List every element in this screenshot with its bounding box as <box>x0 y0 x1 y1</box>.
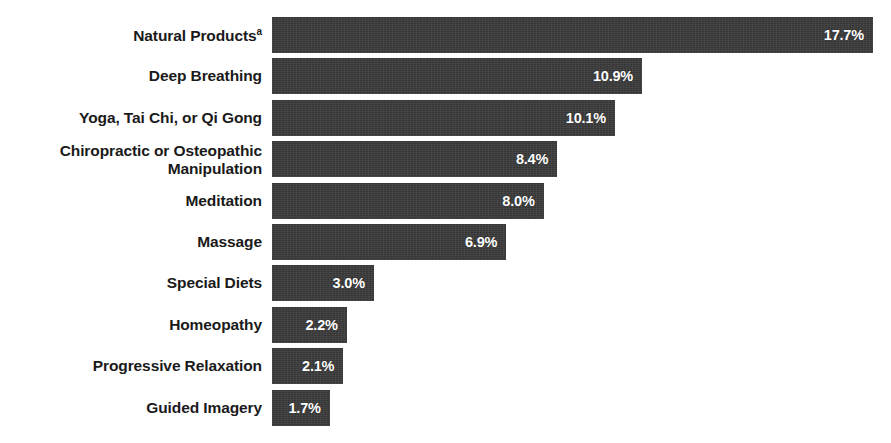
bar-row: Progressive Relaxation2.1% <box>0 348 891 384</box>
bar: 17.7% <box>272 17 873 53</box>
bar-category-label: Natural Productsa <box>0 26 262 45</box>
bar-row: Natural Productsa17.7% <box>0 17 891 53</box>
bar: 1.7% <box>272 390 330 426</box>
bar-value-label: 10.1% <box>566 110 615 126</box>
bar-row: Deep Breathing10.9% <box>0 58 891 94</box>
bar: 2.1% <box>272 348 343 384</box>
category-footnote-marker: a <box>257 26 262 37</box>
bar-value-label: 2.1% <box>302 358 343 374</box>
bar: 3.0% <box>272 265 374 301</box>
bar: 8.4% <box>272 141 557 177</box>
bar-chart: Natural Productsa17.7%Deep Breathing10.9… <box>0 0 891 443</box>
bar-category-label: Homeopathy <box>0 316 262 333</box>
bar-value-label: 3.0% <box>333 275 374 291</box>
bar-category-label: Yoga, Tai Chi, or Qi Gong <box>0 109 262 126</box>
bar-row: Meditation8.0% <box>0 183 891 219</box>
bar-category-label: Chiropractic or Osteopathic Manipulation <box>0 142 262 177</box>
bar-value-label: 10.9% <box>593 68 642 84</box>
bar-row: Homeopathy2.2% <box>0 307 891 343</box>
bar-row: Special Diets3.0% <box>0 265 891 301</box>
bar-category-label: Guided Imagery <box>0 399 262 416</box>
bar: 8.0% <box>272 183 544 219</box>
plot-area: Natural Productsa17.7%Deep Breathing10.9… <box>0 0 891 443</box>
bar-category-label: Deep Breathing <box>0 68 262 85</box>
bar-category-label: Meditation <box>0 192 262 209</box>
bar-value-label: 8.0% <box>502 193 543 209</box>
bar-category-label: Special Diets <box>0 275 262 292</box>
bar-value-label: 17.7% <box>824 27 873 43</box>
bar-row: Guided Imagery1.7% <box>0 390 891 426</box>
bar-row: Yoga, Tai Chi, or Qi Gong10.1% <box>0 100 891 136</box>
bar: 2.2% <box>272 307 347 343</box>
bar-category-label: Massage <box>0 233 262 250</box>
bar-value-label: 8.4% <box>516 151 557 167</box>
bar-value-label: 2.2% <box>305 317 346 333</box>
bar: 10.1% <box>272 100 615 136</box>
bar-row: Massage6.9% <box>0 224 891 260</box>
bar: 10.9% <box>272 58 642 94</box>
bar: 6.9% <box>272 224 506 260</box>
bar-row: Chiropractic or Osteopathic Manipulation… <box>0 141 891 177</box>
bar-value-label: 1.7% <box>288 400 329 416</box>
bar-category-label: Progressive Relaxation <box>0 358 262 375</box>
bar-value-label: 6.9% <box>465 234 506 250</box>
